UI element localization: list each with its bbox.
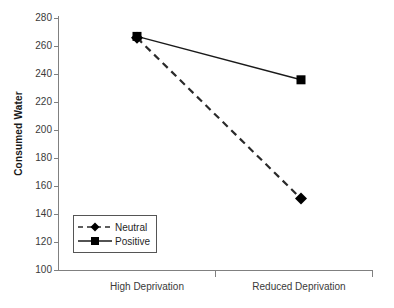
x-tick-label-high-deprivation: High Deprivation — [77, 281, 217, 292]
data-point-marker-square — [297, 75, 306, 84]
chart-container: Consumed Water 280 260 240 220 200 180 1… — [0, 0, 394, 308]
y-axis-ticks — [54, 19, 58, 271]
x-axis-ticks — [216, 270, 373, 277]
x-tick-label-reduced-deprivation: Reduced Deprivation — [224, 281, 374, 292]
plot-svg: Neutral Positive — [0, 0, 394, 308]
legend: Neutral Positive — [74, 216, 157, 253]
data-point-marker-diamond — [295, 193, 307, 205]
legend-label-positive: Positive — [115, 236, 150, 247]
legend-marker-square — [91, 237, 99, 245]
legend-label-neutral: Neutral — [115, 222, 147, 233]
